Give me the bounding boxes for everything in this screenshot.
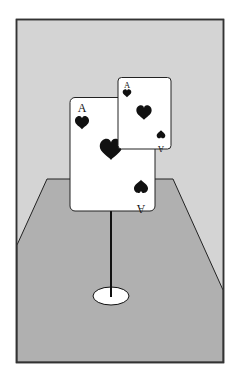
large-card-rank: A <box>78 101 87 115</box>
card-display-scene: A A A A <box>0 0 237 384</box>
small-card-rank: A <box>124 80 131 90</box>
large-card-rank-inverted: A <box>136 202 145 216</box>
small-card: A A <box>118 78 171 155</box>
small-card-rank-inverted: A <box>157 144 164 154</box>
